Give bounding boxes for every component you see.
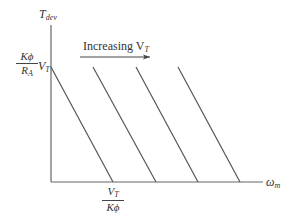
diagram-canvas <box>0 0 290 221</box>
y-intercept-vt: VT <box>38 60 50 74</box>
torque-speed-line-2 <box>93 67 156 182</box>
torque-speed-lines <box>51 67 240 182</box>
torque-speed-line-1 <box>51 67 113 182</box>
y-axis-label: Tdev <box>39 8 57 22</box>
x-axis-label: ωm <box>266 176 280 190</box>
torque-speed-line-4 <box>178 67 240 182</box>
y-intercept-fraction: Kϕ RA <box>16 51 38 78</box>
x-intercept-fraction: VT Kϕ <box>102 186 124 213</box>
increasing-vt-annotation: Increasing VT <box>83 40 149 54</box>
torque-speed-line-3 <box>136 67 198 182</box>
